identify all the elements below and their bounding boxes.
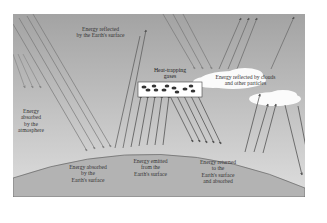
label-absorbed-atmosphere: Energy absorbed by the atmosphere [13, 108, 51, 134]
heat-trapping-gases-box [138, 82, 202, 97]
greenhouse-diagram: Energy reflected by the Earth's surface … [13, 14, 305, 197]
label-emitted-surface: Energy emitted from the Earth's surface [123, 158, 178, 177]
label-heat-trapping-gases: Heat-trapping gases [140, 67, 200, 80]
label-absorbed-surface: Energy absorbed by the Earth's surface [58, 164, 118, 183]
label-reflected-surface: Energy reflected by the Earth's surface [63, 26, 138, 39]
label-returned-surface: Energy returned to the Earth's surface a… [189, 159, 247, 185]
label-reflected-clouds: Energy reflected by clouds and other par… [203, 74, 288, 87]
